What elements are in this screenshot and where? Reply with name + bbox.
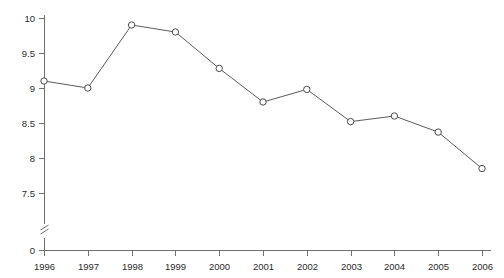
x-tick-label: 1997: [78, 261, 99, 272]
data-point-marker: [435, 129, 441, 135]
data-point-marker: [347, 118, 353, 124]
x-tick-label: 2005: [428, 261, 449, 272]
data-point-marker: [216, 65, 222, 71]
x-tick-label: 2001: [253, 261, 274, 272]
x-tick-label: 2002: [297, 261, 318, 272]
y-tick-label: 8: [30, 153, 35, 164]
data-point-marker: [479, 165, 485, 171]
x-tick-label: 2000: [209, 261, 230, 272]
line-chart-plot: 109.598.587.50 1996199719981999200020012…: [0, 0, 504, 278]
data-point-marker: [85, 85, 91, 91]
x-tick-marks: [45, 251, 483, 257]
data-point-marker: [260, 99, 266, 105]
x-tick-label: 2003: [341, 261, 362, 272]
y-tick-label: 7.5: [22, 188, 35, 199]
data-point-marker: [128, 22, 134, 28]
axis-break-icon: [41, 225, 49, 234]
x-tick-label: 2006: [472, 261, 493, 272]
x-tick-labels: 1996199719981999200020012002200320042005…: [34, 261, 493, 272]
y-tick-label: 9.5: [22, 48, 35, 59]
x-tick-label: 2004: [384, 261, 405, 272]
chart-container: 109.598.587.50 1996199719981999200020012…: [0, 0, 504, 278]
y-axis: [41, 15, 49, 250]
y-tick-label: 8.5: [22, 118, 35, 129]
y-tick-label: 10: [24, 13, 35, 24]
data-point-markers: [41, 22, 485, 172]
y-tick-marks: [39, 19, 45, 251]
x-tick-label: 1996: [34, 261, 55, 272]
y-tick-label-zero: 0: [30, 245, 35, 256]
x-tick-label: 1998: [122, 261, 143, 272]
data-point-marker: [304, 86, 310, 92]
y-tick-label: 9: [30, 83, 35, 94]
data-point-marker: [41, 78, 47, 84]
x-tick-label: 1999: [165, 261, 186, 272]
data-point-marker: [391, 113, 397, 119]
data-point-marker: [172, 29, 178, 35]
series-line-1: [44, 25, 482, 169]
y-tick-labels: 109.598.587.50: [22, 13, 35, 256]
